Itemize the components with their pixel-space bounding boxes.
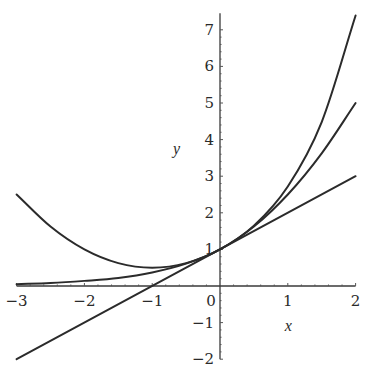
y-axis-label: y <box>171 140 181 158</box>
linear-approximation-line <box>17 176 356 359</box>
x-axis: −3−2−1012 x <box>6 283 361 334</box>
y-tick-label: −2 <box>192 350 214 368</box>
x-tick-label: 0 <box>206 292 216 310</box>
y-tick-label: 7 <box>204 21 214 39</box>
y-axis: −2−11234567 y <box>171 13 223 368</box>
x-axis-label: x <box>284 317 292 334</box>
y-tick-label: 6 <box>204 57 214 75</box>
plot-curves <box>17 16 356 360</box>
quadratic-approximation-curve <box>17 103 356 268</box>
y-axis-ticks: −2−11234567 <box>192 21 223 368</box>
x-axis-ticks: −3−2−1012 <box>6 283 361 310</box>
x-tick-label: 2 <box>351 292 361 310</box>
y-tick-label: 3 <box>204 167 214 185</box>
y-tick-label: 2 <box>204 204 214 222</box>
y-tick-label: 5 <box>204 94 214 112</box>
y-tick-label: −1 <box>192 314 214 332</box>
exp-curve <box>17 16 356 285</box>
x-tick-label: −1 <box>141 292 163 310</box>
x-tick-label: 1 <box>283 292 293 310</box>
y-tick-label: 4 <box>204 131 214 149</box>
plot-canvas: −3−2−1012 x −2−11234567 y <box>0 0 368 375</box>
x-tick-label: −3 <box>6 292 28 310</box>
x-tick-label: −2 <box>73 292 95 310</box>
